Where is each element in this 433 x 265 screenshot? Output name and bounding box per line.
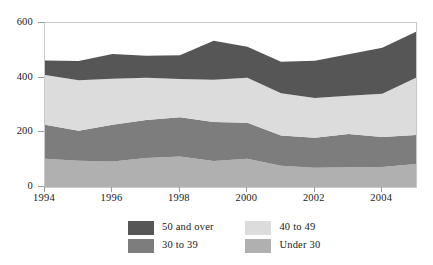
legend-item-50-and-over: 50 and over [128,220,231,235]
x-tick-mark-2000 [246,187,247,192]
x-tick-label-2004: 2004 [370,193,392,204]
legend-label-40-to-49: 40 to 49 [279,222,315,233]
legend-item-40-to-49: 40 to 49 [245,220,338,235]
x-tick-label-2000: 2000 [235,193,257,204]
x-tick-mark-1996 [111,187,112,192]
x-tick-mark-1994 [44,187,45,192]
x-tick-mark-2004 [381,187,382,192]
legend-label-under-30: Under 30 [279,240,320,251]
x-tick-label-1996: 1996 [101,193,123,204]
legend-item-30-to-39: 30 to 39 [128,238,231,253]
x-tick-label-1998: 1998 [168,193,190,204]
legend-swatch-50-and-over [128,221,154,235]
x-tick-label-1994: 1994 [33,193,55,204]
legend-item-under-30: Under 30 [245,238,338,253]
x-tick-mark-1998 [179,187,180,192]
legend-label-50-and-over: 50 and over [162,222,214,233]
legend-swatch-30-to-39 [128,239,154,253]
legend-swatch-under-30 [245,239,271,253]
chart-legend: 50 and over 40 to 49 30 to 39 Under 30 [128,220,338,253]
chart-figure: 0200400600 199419961998200020022004 50 a… [0,0,433,265]
x-tick-mark-2002 [314,187,315,192]
legend-label-30-to-39: 30 to 39 [162,240,198,251]
x-tick-label-2002: 2002 [303,193,325,204]
legend-swatch-40-to-49 [245,221,271,235]
